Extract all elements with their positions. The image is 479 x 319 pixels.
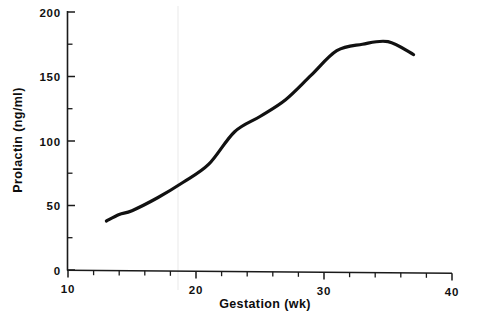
y-tick-label-50: 50	[47, 200, 61, 212]
x-tick-label-10: 10	[61, 283, 75, 295]
prolactin-curve	[106, 41, 413, 221]
y-axis: 200 150 100 50 0 Prolactin (ng/ml)	[11, 7, 75, 277]
chart-svg: 200 150 100 50 0 Prolactin (ng/ml)	[0, 0, 479, 319]
x-tick-label-40: 40	[445, 286, 459, 298]
prolactin-gestation-chart: 200 150 100 50 0 Prolactin (ng/ml)	[0, 0, 479, 319]
x-tick-label-30: 30	[317, 285, 331, 297]
x-tick-label-20: 20	[189, 284, 203, 296]
y-tick-label-150: 150	[39, 71, 61, 83]
y-axis-title: Prolactin (ng/ml)	[11, 87, 25, 192]
x-axis: 10 20 30 40 Gestation (wk)	[61, 270, 459, 311]
y-tick-label-200: 200	[39, 7, 61, 19]
x-axis-line	[67, 270, 452, 273]
y-tick-label-100: 100	[39, 136, 61, 148]
data-series-group	[106, 41, 413, 221]
y-tick-label-0: 0	[54, 265, 61, 277]
x-axis-title: Gestation (wk)	[219, 297, 311, 311]
